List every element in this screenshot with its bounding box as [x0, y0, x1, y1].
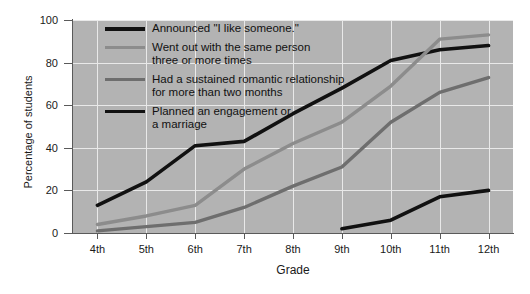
x-axis-tick	[293, 233, 294, 239]
legend-item: Planned an engagement or a marriage	[105, 105, 405, 132]
y-axis-tick-label: 0	[0, 227, 58, 239]
legend-item: Went out with the same person three or m…	[105, 41, 405, 68]
x-axis-tick	[146, 233, 147, 239]
y-axis-tick	[64, 20, 72, 21]
line-chart: 020406080100 4th5th6th7th8th9th10th11th1…	[0, 0, 530, 294]
y-axis-tick	[64, 105, 72, 106]
x-axis-tick	[97, 233, 98, 239]
x-axis-tick	[440, 233, 441, 239]
legend-label: Announced "I like someone."	[152, 22, 299, 36]
x-axis-tick-label: 9th	[334, 243, 349, 255]
x-axis-tick-label: 7th	[236, 243, 251, 255]
legend-swatch-icon	[105, 78, 145, 81]
x-axis-title: Grade	[73, 263, 513, 277]
legend-swatch-icon	[105, 46, 145, 49]
legend-item: Announced "I like someone."	[105, 22, 405, 36]
x-axis-tick-label: 10th	[380, 243, 401, 255]
x-axis-tick	[342, 233, 343, 239]
x-axis-tick-label: 4th	[90, 243, 105, 255]
legend-label: Had a sustained romantic relationship fo…	[152, 73, 344, 100]
x-axis-tick-label: 8th	[285, 243, 300, 255]
x-axis-tick-label: 11th	[429, 243, 450, 255]
x-axis-tick	[244, 233, 245, 239]
x-axis-tick	[391, 233, 392, 239]
chart-legend: Announced "I like someone."Went out with…	[105, 22, 405, 137]
y-axis-tick	[64, 233, 72, 234]
y-axis-tick	[64, 190, 72, 191]
x-axis-tick	[489, 233, 490, 239]
series-line	[342, 190, 489, 228]
legend-label: Planned an engagement or a marriage	[152, 105, 291, 132]
x-axis-tick-label: 5th	[139, 243, 154, 255]
x-axis-tick-label: 6th	[188, 243, 203, 255]
legend-item: Had a sustained romantic relationship fo…	[105, 73, 405, 100]
x-axis-tick	[195, 233, 196, 239]
legend-swatch-icon	[105, 27, 145, 31]
y-axis-title: Percentage of students	[22, 42, 34, 222]
x-axis-tick-label: 12th	[478, 243, 499, 255]
y-axis-tick	[64, 63, 72, 64]
legend-label: Went out with the same person three or m…	[152, 41, 310, 68]
y-axis-tick-label: 100	[0, 14, 58, 26]
legend-swatch-icon	[105, 110, 145, 114]
y-axis-line	[72, 19, 73, 234]
y-axis-tick	[64, 148, 72, 149]
